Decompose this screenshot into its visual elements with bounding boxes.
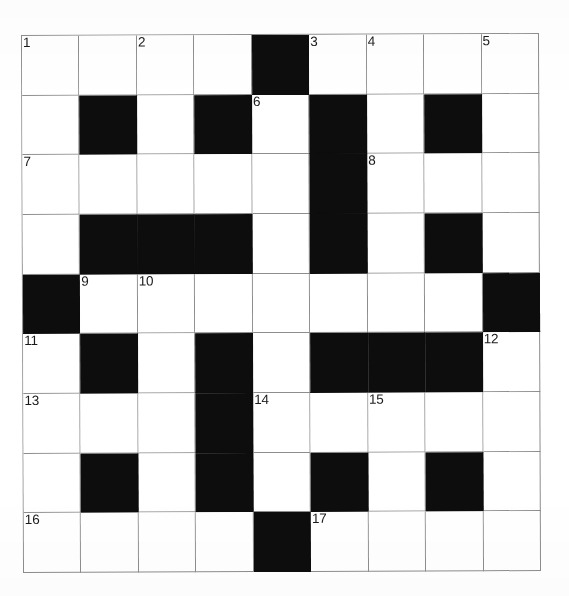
- block-cell: [254, 512, 312, 572]
- block-cell: [425, 213, 483, 273]
- block-cell: [195, 214, 253, 274]
- letter-cell[interactable]: [80, 155, 138, 215]
- letter-cell[interactable]: [79, 36, 137, 96]
- block-cell: [138, 214, 196, 274]
- block-cell: [196, 453, 254, 513]
- clue-number: 4: [368, 34, 375, 49]
- clue-number: 2: [138, 35, 145, 50]
- letter-cell[interactable]: [483, 452, 541, 512]
- clue-number: 1: [23, 35, 30, 50]
- letter-cell[interactable]: [483, 392, 541, 452]
- clue-number: 10: [139, 273, 154, 288]
- clue-number: 5: [483, 33, 490, 48]
- clue-number: 17: [312, 511, 327, 526]
- letter-cell[interactable]: [367, 94, 425, 154]
- block-cell: [482, 273, 540, 333]
- letter-cell[interactable]: 7: [22, 155, 80, 215]
- letter-cell[interactable]: [22, 95, 80, 155]
- block-cell: [311, 452, 369, 512]
- clue-number: 14: [254, 392, 269, 407]
- block-cell: [310, 333, 368, 393]
- block-cell: [368, 333, 426, 393]
- letter-cell[interactable]: [311, 393, 369, 453]
- letter-cell[interactable]: [252, 154, 310, 214]
- letter-cell[interactable]: 9: [80, 274, 138, 334]
- letter-cell[interactable]: [253, 274, 311, 334]
- letter-cell[interactable]: [482, 213, 540, 273]
- letter-cell[interactable]: 16: [24, 513, 82, 573]
- letter-cell[interactable]: 17: [311, 512, 369, 572]
- block-cell: [426, 452, 484, 512]
- block-cell: [195, 333, 253, 393]
- letter-cell[interactable]: [482, 94, 540, 154]
- letter-cell[interactable]: 12: [483, 332, 541, 392]
- letter-cell[interactable]: [368, 273, 426, 333]
- clue-number: 13: [24, 393, 39, 408]
- letter-cell[interactable]: [425, 273, 483, 333]
- block-cell: [81, 453, 139, 513]
- letter-cell[interactable]: [368, 512, 426, 572]
- letter-cell[interactable]: 1: [22, 36, 80, 96]
- clue-number: 9: [81, 273, 88, 288]
- letter-cell[interactable]: [23, 215, 81, 275]
- letter-cell[interactable]: [137, 95, 195, 155]
- letter-cell[interactable]: 8: [367, 154, 425, 214]
- letter-cell[interactable]: [367, 213, 425, 273]
- letter-cell[interactable]: 11: [23, 334, 81, 394]
- clue-number: 6: [253, 94, 260, 109]
- letter-cell[interactable]: 13: [23, 394, 81, 454]
- letter-cell[interactable]: [195, 274, 253, 334]
- letter-cell[interactable]: [24, 453, 82, 513]
- clue-number: 15: [369, 392, 384, 407]
- letter-cell[interactable]: 3: [309, 35, 367, 95]
- letter-cell[interactable]: [253, 333, 311, 393]
- crossword-puzzle: 1234567891011121314151617: [0, 0, 569, 596]
- block-cell: [23, 274, 81, 334]
- letter-cell[interactable]: [424, 34, 482, 94]
- letter-cell[interactable]: [425, 154, 483, 214]
- clue-number: 16: [25, 512, 40, 527]
- letter-cell[interactable]: [138, 393, 196, 453]
- letter-cell[interactable]: [195, 154, 253, 214]
- letter-cell[interactable]: [81, 513, 139, 573]
- letter-cell[interactable]: [81, 394, 139, 454]
- crossword-grid[interactable]: 1234567891011121314151617: [21, 33, 541, 573]
- letter-cell[interactable]: [482, 153, 540, 213]
- letter-cell[interactable]: [137, 155, 195, 215]
- block-cell: [424, 94, 482, 154]
- letter-cell[interactable]: 2: [137, 35, 195, 95]
- block-cell: [425, 333, 483, 393]
- clue-number: 3: [310, 34, 317, 49]
- letter-cell[interactable]: [196, 512, 254, 572]
- letter-cell[interactable]: 4: [367, 34, 425, 94]
- letter-cell[interactable]: 10: [138, 274, 196, 334]
- block-cell: [310, 154, 368, 214]
- letter-cell[interactable]: 14: [253, 393, 311, 453]
- block-cell: [195, 95, 253, 155]
- letter-cell[interactable]: 5: [482, 34, 540, 94]
- block-cell: [310, 214, 368, 274]
- letter-cell[interactable]: [426, 512, 484, 572]
- clue-number: 11: [24, 333, 38, 348]
- block-cell: [80, 95, 138, 155]
- clue-number: 7: [23, 154, 30, 169]
- block-cell: [81, 334, 139, 394]
- block-cell: [309, 94, 367, 154]
- block-cell: [196, 393, 254, 453]
- clue-number: 8: [368, 153, 375, 168]
- letter-cell[interactable]: [252, 214, 310, 274]
- letter-cell[interactable]: [483, 511, 541, 571]
- letter-cell[interactable]: [310, 273, 368, 333]
- letter-cell[interactable]: [425, 392, 483, 452]
- letter-cell[interactable]: [138, 453, 196, 513]
- letter-cell[interactable]: 6: [252, 95, 310, 155]
- letter-cell[interactable]: [368, 452, 426, 512]
- letter-cell[interactable]: [253, 453, 311, 513]
- letter-cell[interactable]: 15: [368, 392, 426, 452]
- block-cell: [80, 215, 138, 275]
- block-cell: [252, 35, 310, 95]
- letter-cell[interactable]: [194, 35, 252, 95]
- letter-cell[interactable]: [138, 334, 196, 394]
- letter-cell[interactable]: [139, 513, 197, 573]
- clue-number: 12: [484, 331, 499, 346]
